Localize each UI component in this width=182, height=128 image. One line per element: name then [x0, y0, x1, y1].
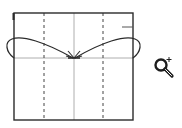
right-fold-arrow — [75, 38, 140, 58]
left-fold-arrow — [7, 38, 73, 58]
zoom-in-button[interactable]: Zoom in — [152, 54, 178, 80]
paper-square — [14, 13, 133, 120]
zoom-in-icon — [152, 54, 178, 80]
